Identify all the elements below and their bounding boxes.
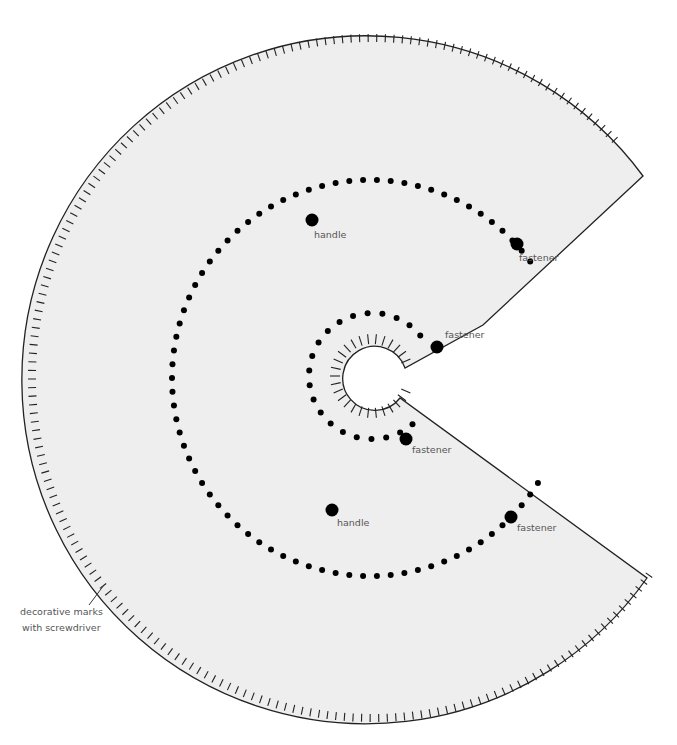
rivet-dot: [415, 183, 421, 189]
rivet-dot: [401, 570, 407, 576]
fastener-label: fastener: [519, 252, 559, 263]
rivet-dot: [199, 480, 205, 486]
lid-outline: [22, 36, 647, 724]
handle-hole-marker: [326, 504, 339, 517]
rivet-dot: [171, 347, 177, 353]
rivet-dot: [527, 491, 533, 497]
rivet-dot: [406, 322, 412, 328]
rivet-dot: [415, 567, 421, 573]
rivet-dot: [268, 204, 274, 210]
rivet-dot: [181, 307, 187, 313]
rivet-dot: [306, 563, 312, 569]
rivet-dot: [235, 228, 241, 234]
rivet-dot: [215, 248, 221, 254]
rivet-dot: [207, 259, 213, 265]
rivet-dot: [169, 389, 175, 395]
rivet-dot: [245, 219, 251, 225]
annotation: decorative marks with screwdriver: [20, 585, 104, 633]
rivet-dot: [280, 553, 286, 559]
rivet-dot: [409, 421, 415, 427]
annotation-line-1: decorative marks: [20, 606, 103, 617]
rivet-dot: [192, 468, 198, 474]
outer-tick: [402, 35, 403, 43]
rivet-dot: [478, 211, 484, 217]
outer-tick: [29, 353, 37, 354]
rivet-dot: [519, 502, 525, 508]
rivet-dot: [173, 334, 179, 340]
rivet-dot: [181, 443, 187, 449]
rivet-dot: [199, 270, 205, 276]
outer-tick: [29, 404, 37, 405]
rivet-dot: [374, 573, 380, 579]
rivet-dot: [293, 559, 299, 565]
rivet-dot: [379, 311, 385, 317]
rivet-dot: [245, 531, 251, 537]
rivet-dot: [489, 531, 495, 537]
rivet-dot: [225, 513, 231, 519]
rivet-dot: [368, 436, 374, 442]
rivet-dot: [499, 228, 505, 234]
rivet-dot: [388, 178, 394, 184]
annotation-line-2: with screwdriver: [22, 622, 101, 633]
outer-tick: [342, 35, 343, 43]
rivet-dot: [354, 434, 360, 440]
rivet-dot: [215, 502, 221, 508]
rivet-dot: [280, 197, 286, 203]
rivet-dot: [306, 368, 312, 374]
rivet-dot: [535, 480, 541, 486]
rivet-dot: [256, 211, 262, 217]
rivet-dot: [417, 333, 423, 339]
rivet-dot: [466, 204, 472, 210]
handle-label: handle: [314, 229, 347, 240]
fastener-hole-marker: [511, 238, 524, 251]
rivet-dot: [307, 382, 313, 388]
rivet-dot: [186, 294, 192, 300]
rivet-dot: [401, 180, 407, 186]
rivet-dot: [454, 197, 460, 203]
rivet-dot: [169, 361, 175, 367]
rivet-dot: [225, 237, 231, 243]
fastener-hole-marker: [505, 511, 518, 524]
fastener-label: fastener: [412, 444, 452, 455]
rivet-dot: [499, 522, 505, 528]
rivet-dot: [388, 572, 394, 578]
rivet-dot: [454, 553, 460, 559]
rivet-dot: [268, 546, 274, 552]
handle-label: handle: [337, 517, 370, 528]
outer-tick: [396, 713, 397, 721]
rivet-dot: [428, 187, 434, 193]
rivet-dot: [360, 573, 366, 579]
rivet-dot: [333, 180, 339, 186]
outer-tick: [30, 344, 38, 345]
handle-hole-marker: [306, 214, 319, 227]
rivet-dot: [333, 570, 339, 576]
hole-tick: [401, 389, 410, 393]
outer-tick: [344, 713, 345, 721]
rivet-dot: [235, 522, 241, 528]
outer-tick: [394, 35, 395, 43]
rivet-dot: [365, 310, 371, 316]
rivet-dot: [207, 491, 213, 497]
fastener-hole-marker: [400, 433, 413, 446]
rivet-dot: [177, 320, 183, 326]
fastener-hole-marker: [431, 341, 444, 354]
rivet-dot: [293, 191, 299, 197]
rivet-dot: [428, 563, 434, 569]
rivet-dot: [374, 177, 380, 183]
rivet-dot: [394, 315, 400, 321]
tin-lid-template-diagram: handlefastenerfastenerfastenerhandlefast…: [0, 0, 677, 745]
rivet-dot: [309, 353, 315, 359]
rivet-dot: [350, 313, 356, 319]
fastener-label: fastener: [445, 329, 485, 340]
rivet-dot: [441, 559, 447, 565]
rivet-dot: [441, 191, 447, 197]
rivet-dot: [318, 410, 324, 416]
rivet-dot: [346, 572, 352, 578]
rivet-dot: [177, 430, 183, 436]
rivet-dot: [192, 282, 198, 288]
rivet-dot: [328, 421, 334, 427]
rivet-dot: [316, 340, 322, 346]
rivet-dot: [360, 177, 366, 183]
rivet-dot: [306, 187, 312, 193]
rivet-dot: [478, 539, 484, 545]
